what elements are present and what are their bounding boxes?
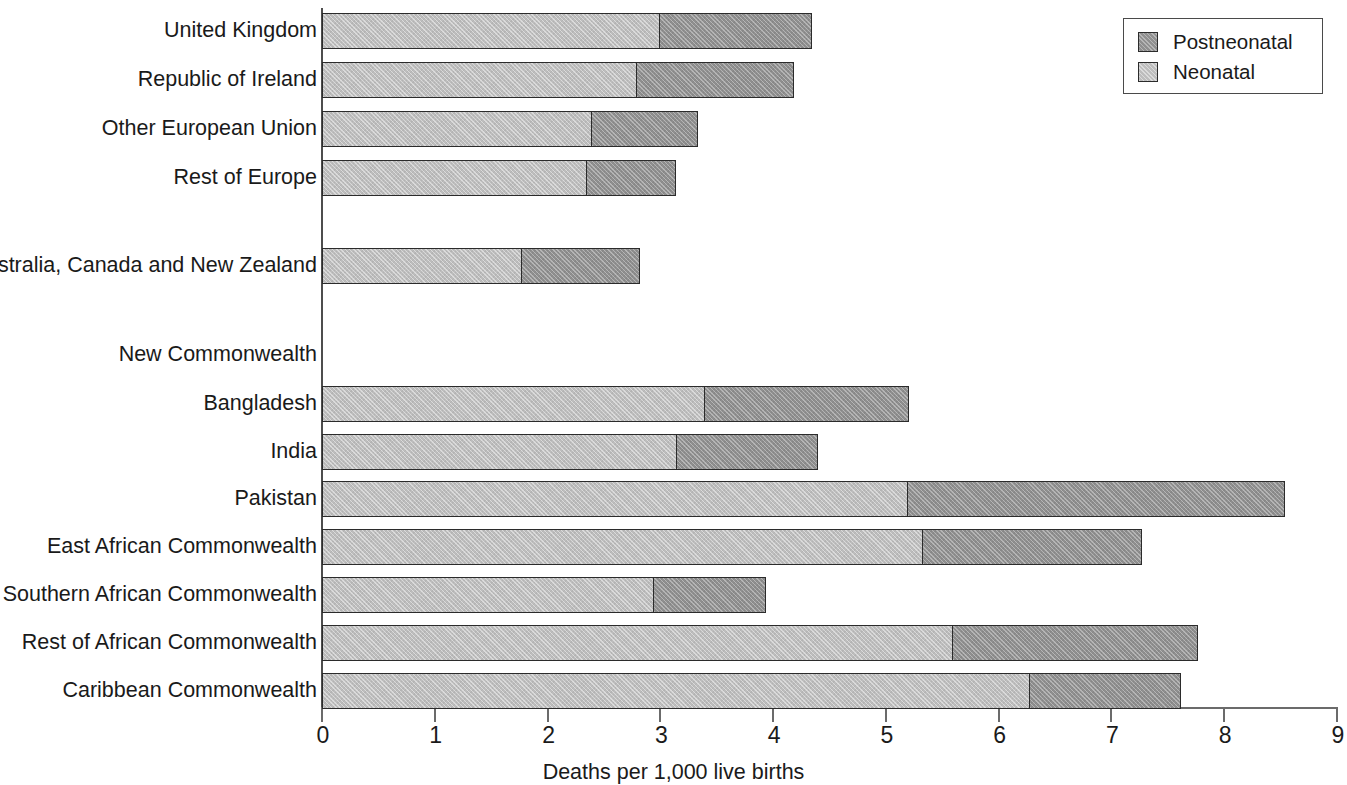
chart-row: New Commonwealth	[0, 337, 1347, 373]
chart-row: Australia, Canada and New Zealand	[0, 248, 1347, 284]
stacked-bar[interactable]	[322, 481, 1286, 517]
chart-row: East African Commonwealth	[0, 529, 1347, 565]
category-label: Caribbean Commonwealth	[62, 678, 317, 703]
legend-label-neonatal: Neonatal	[1173, 60, 1255, 84]
stacked-bar[interactable]	[322, 673, 1182, 709]
stacked-bar[interactable]	[322, 160, 677, 196]
category-label: United Kingdom	[164, 18, 317, 43]
stacked-bar[interactable]	[322, 13, 814, 49]
bar-segment-neonatal[interactable]	[322, 434, 677, 470]
x-tick-label-1: 1	[416, 722, 456, 749]
category-label: Rest of Europe	[174, 165, 317, 190]
legend-item-neonatal[interactable]: Neonatal	[1138, 57, 1322, 87]
bar-segment-postneonatal[interactable]	[952, 625, 1198, 661]
bar-segment-neonatal[interactable]	[322, 111, 593, 147]
chart-row: Caribbean Commonwealth	[0, 673, 1347, 709]
x-tick-label-7: 7	[1092, 722, 1132, 749]
category-label: Australia, Canada and New Zealand	[0, 253, 317, 278]
bar-segment-neonatal[interactable]	[322, 160, 587, 196]
bar-segment-neonatal[interactable]	[322, 386, 705, 422]
bar-segment-postneonatal[interactable]	[922, 529, 1142, 565]
bar-segment-neonatal[interactable]	[322, 529, 923, 565]
x-tick-1	[434, 709, 436, 722]
stacked-bar[interactable]	[322, 62, 796, 98]
stacked-bar[interactable]	[322, 625, 1199, 661]
category-label: Bangladesh	[203, 391, 317, 416]
stacked-bar[interactable]	[322, 386, 911, 422]
bar-segment-neonatal[interactable]	[322, 13, 660, 49]
legend-swatch-postneonatal	[1138, 32, 1158, 52]
x-tick-label-8: 8	[1205, 722, 1245, 749]
category-label: Rest of African Commonwealth	[22, 630, 317, 655]
bar-segment-postneonatal[interactable]	[1029, 673, 1181, 709]
chart-row: India	[0, 434, 1347, 470]
bar-segment-postneonatal[interactable]	[591, 111, 698, 147]
x-tick-4	[772, 709, 774, 722]
bar-segment-postneonatal[interactable]	[676, 434, 818, 470]
bar-segment-neonatal[interactable]	[322, 625, 954, 661]
chart-row: Pakistan	[0, 481, 1347, 517]
x-tick-3	[659, 709, 661, 722]
stacked-bar[interactable]	[322, 111, 700, 147]
bar-segment-postneonatal[interactable]	[636, 62, 794, 98]
category-label: Other European Union	[102, 116, 317, 141]
bar-segment-postneonatal[interactable]	[653, 577, 766, 613]
x-tick-label-4: 4	[754, 722, 794, 749]
category-label: Republic of Ireland	[138, 67, 317, 92]
legend-swatch-neonatal	[1138, 62, 1158, 82]
x-tick-2	[547, 709, 549, 722]
chart-row: Bangladesh	[0, 386, 1347, 422]
chart-row: Southern African Commonwealth	[0, 577, 1347, 613]
legend-item-postneonatal[interactable]: Postneonatal	[1138, 27, 1322, 57]
x-tick-label-2: 2	[529, 722, 569, 749]
bar-segment-neonatal[interactable]	[322, 673, 1030, 709]
x-tick-9	[1336, 709, 1338, 722]
stacked-bar[interactable]	[322, 434, 819, 470]
bar-segment-neonatal[interactable]	[322, 481, 908, 517]
bar-segment-postneonatal[interactable]	[907, 481, 1285, 517]
x-tick-8	[1223, 709, 1225, 722]
category-label: India	[270, 439, 317, 464]
bar-segment-neonatal[interactable]	[322, 248, 523, 284]
bar-segment-neonatal[interactable]	[322, 577, 655, 613]
bar-segment-postneonatal[interactable]	[521, 248, 639, 284]
x-tick-label-0: 0	[303, 722, 343, 749]
chart-row: Rest of Europe	[0, 160, 1347, 196]
bar-segment-postneonatal[interactable]	[704, 386, 909, 422]
bar-segment-postneonatal[interactable]	[586, 160, 676, 196]
bar-segment-postneonatal[interactable]	[659, 13, 812, 49]
chart-legend: Postneonatal Neonatal	[1123, 18, 1323, 94]
x-tick-7	[1110, 709, 1112, 722]
legend-label-postneonatal: Postneonatal	[1173, 30, 1293, 54]
chart-row: Other European Union	[0, 111, 1347, 147]
x-tick-label-6: 6	[980, 722, 1020, 749]
chart-row: Rest of African Commonwealth	[0, 625, 1347, 661]
category-label: Pakistan	[235, 486, 317, 511]
x-tick-label-9: 9	[1318, 722, 1347, 749]
category-label: East African Commonwealth	[47, 534, 317, 559]
x-tick-label-3: 3	[641, 722, 681, 749]
category-label: New Commonwealth	[119, 342, 317, 367]
x-axis-title: Deaths per 1,000 live births	[0, 760, 1347, 785]
x-tick-0	[321, 709, 323, 722]
x-tick-6	[998, 709, 1000, 722]
x-tick-5	[885, 709, 887, 722]
category-label: Southern African Commonwealth	[3, 582, 317, 607]
bar-segment-neonatal[interactable]	[322, 62, 638, 98]
stacked-bar[interactable]	[322, 529, 1143, 565]
stacked-bar[interactable]	[322, 577, 767, 613]
stacked-bar[interactable]	[322, 248, 641, 284]
x-tick-label-5: 5	[867, 722, 907, 749]
